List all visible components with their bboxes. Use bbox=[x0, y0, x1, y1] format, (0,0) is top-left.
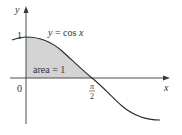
function-label: y = cos x bbox=[47, 27, 84, 38]
x-tick-label-pi: π bbox=[90, 82, 95, 91]
y-axis-label: y bbox=[14, 4, 20, 15]
area-label: area = 1 bbox=[33, 64, 65, 75]
origin-label: 0 bbox=[17, 83, 22, 94]
y-tick-label-1: 1 bbox=[17, 30, 22, 41]
x-axis-arrow-icon bbox=[163, 76, 170, 81]
cosine-area-diagram: y x 1 0 y = cos x area = 1 π 2 bbox=[0, 0, 182, 135]
y-axis-arrow-icon bbox=[24, 6, 29, 13]
x-tick-label-two: 2 bbox=[90, 92, 94, 101]
x-axis-label: x bbox=[163, 82, 169, 93]
